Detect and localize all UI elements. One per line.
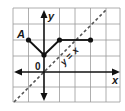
x-axis-label: x <box>111 74 119 86</box>
y-axis-label: y <box>47 10 55 22</box>
point-1-2 <box>57 37 62 42</box>
point-a-label: A <box>16 28 25 40</box>
y-axis-down-arrow-icon <box>41 93 48 101</box>
origin-label: 0 <box>35 61 41 72</box>
point-3-2 <box>88 37 93 42</box>
coordinate-plane: y x 0 A y = x <box>0 0 125 111</box>
point-vertex <box>41 52 46 57</box>
x-axis-left-arrow-icon <box>14 69 22 76</box>
x-axis <box>14 69 120 76</box>
y-axis-up-arrow-icon <box>41 10 48 18</box>
point-a <box>26 37 31 42</box>
